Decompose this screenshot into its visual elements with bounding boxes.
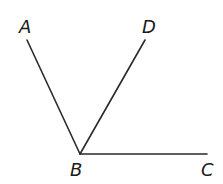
label-point-b: B xyxy=(70,159,82,180)
ray-ba xyxy=(27,40,80,154)
ray-bd xyxy=(80,40,145,154)
label-point-c: C xyxy=(201,159,214,180)
label-point-d: D xyxy=(142,16,156,37)
angle-diagram: A D B C xyxy=(0,0,223,184)
label-point-a: A xyxy=(18,16,31,37)
